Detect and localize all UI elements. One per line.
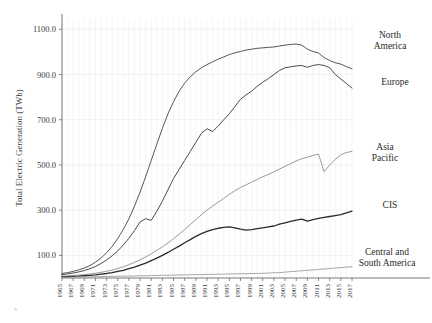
x-tick-label: 2003 [268,284,276,299]
x-tick-label: 2015 [335,284,343,299]
europe-label: Europe [381,77,408,87]
asia-pacific-label: AsiaPacific [372,142,398,163]
x-tick-label: 2005 [279,284,287,299]
vertical-gridlines [62,18,352,278]
central-south-america-label-line1: Central and [365,247,409,257]
x-tick-label: 2007 [290,284,298,299]
x-tick-label: 1991 [201,284,209,299]
y-tick-label: 700.0 [37,115,56,125]
x-tick-label: 1995 [223,284,231,299]
x-tick-label: 2011 [313,284,321,298]
line-chart: 100.0300.0500.0700.0900.01100.0 19651967… [0,0,432,323]
x-tick-label: 1965 [56,284,64,299]
x-tick-label: 1985 [168,284,176,299]
x-tick-label: 1979 [134,284,142,299]
x-tick-label: 2013 [324,284,332,299]
x-tick-label: 1997 [234,284,242,299]
series-labels-group: NorthAmericaEuropeAsiaPacificCISCentral … [359,30,417,268]
x-tick-label: 1971 [89,284,97,299]
x-tick-label: 1973 [101,284,109,299]
y-tick-label: 100.0 [37,250,56,260]
y-axis-ticks: 100.0300.0500.0700.0900.01100.0 [33,24,62,260]
asia-pacific-label-line1: Asia [376,142,394,152]
x-tick-label: 1969 [78,284,86,299]
x-tick-label: 2017 [346,284,354,299]
chart-container: 100.0300.0500.0700.0900.01100.0 19651967… [0,0,432,323]
x-tick-label: 1983 [156,284,164,299]
x-tick-label: 1975 [112,284,120,299]
north-america-label-line2: America [374,41,407,51]
x-tick-label: 1999 [246,284,254,299]
x-tick-label: 1989 [190,284,198,299]
europe-label-line1: Europe [381,77,408,87]
north-america-label: NorthAmerica [374,30,407,51]
asia-pacific-label-line2: Pacific [372,153,398,163]
x-tick-label: 1987 [179,284,187,299]
x-tick-label: 2009 [301,284,309,299]
corner-caret-mark: ^ [14,306,18,314]
central-south-america-label-line2: South America [359,258,417,268]
central-south-america-label: Central andSouth America [359,247,417,268]
y-tick-label: 1100.0 [33,24,56,34]
x-tick-label: 1981 [145,284,153,299]
x-axis-ticks: 1965196719691971197319751977197919811983… [56,278,354,298]
cis-label: CIS [383,200,398,210]
north-america-label-line1: North [379,30,401,40]
y-tick-label: 500.0 [37,160,56,170]
cis-label-line1: CIS [383,200,398,210]
x-tick-label: 2001 [257,284,265,299]
x-tick-label: 1993 [212,284,220,299]
y-tick-label: 900.0 [37,70,56,80]
x-tick-label: 1967 [67,284,75,299]
y-tick-label: 300.0 [37,205,56,215]
x-tick-label: 1977 [123,284,131,299]
y-axis-title: Total Electric Generation (TWh) [14,89,24,207]
